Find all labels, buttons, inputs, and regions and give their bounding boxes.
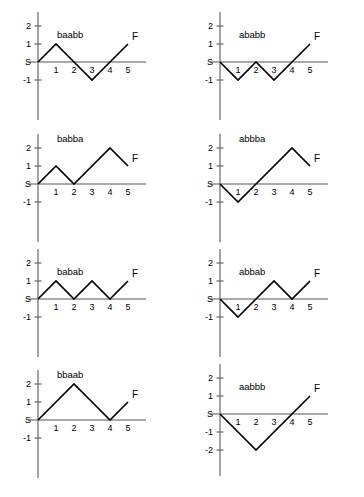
x-tick-label: 5 xyxy=(125,302,130,312)
word-label: bbaab xyxy=(57,369,83,380)
x-tick-label: 5 xyxy=(307,187,312,197)
chart-canvas: 21S-112345ababbF xyxy=(182,6,364,130)
lattice-path-line xyxy=(38,281,128,299)
start-label: S xyxy=(25,415,31,425)
word-label: aabbb xyxy=(239,381,265,392)
x-tick-label: 1 xyxy=(235,65,240,75)
x-tick-label: 4 xyxy=(289,302,294,312)
start-label: S xyxy=(25,294,31,304)
lattice-path-line xyxy=(220,396,310,450)
x-tick-label: 2 xyxy=(71,302,76,312)
end-label: F xyxy=(132,153,138,164)
start-label: S xyxy=(25,57,31,67)
path-panel-baabb: 21S-112345baabbF xyxy=(0,6,182,130)
x-tick-label: 4 xyxy=(289,187,294,197)
y-tick-label: 2 xyxy=(26,21,31,31)
end-label: F xyxy=(314,31,320,42)
x-tick-label: 4 xyxy=(107,65,112,75)
x-tick-label: 5 xyxy=(307,65,312,75)
y-tick-label: -1 xyxy=(205,75,213,85)
y-tick-label: -1 xyxy=(23,197,31,207)
x-tick-label: 1 xyxy=(53,302,58,312)
word-label: abbba xyxy=(239,133,266,144)
start-label: S xyxy=(207,294,213,304)
path-panel-babab: 21S-112345bababF xyxy=(0,243,182,367)
word-label: babba xyxy=(57,133,84,144)
y-tick-label: -1 xyxy=(205,427,213,437)
y-tick-label: -1 xyxy=(23,433,31,443)
y-tick-label: -1 xyxy=(23,312,31,322)
chart-canvas: 21S-112345abbbaF xyxy=(182,128,364,252)
y-tick-label: 1 xyxy=(26,397,31,407)
y-tick-label: -2 xyxy=(205,445,213,455)
word-label: baabb xyxy=(57,29,83,40)
x-tick-label: 1 xyxy=(53,187,58,197)
y-tick-label: 2 xyxy=(208,258,213,268)
chart-canvas: 21S-112345abbabF xyxy=(182,243,364,367)
x-tick-label: 2 xyxy=(253,187,258,197)
y-tick-label: 1 xyxy=(26,276,31,286)
lattice-path-line xyxy=(38,148,128,184)
end-label: F xyxy=(314,153,320,164)
y-tick-label: 1 xyxy=(208,391,213,401)
x-tick-label: 2 xyxy=(71,187,76,197)
x-tick-label: 3 xyxy=(89,65,94,75)
x-tick-label: 2 xyxy=(71,65,76,75)
y-tick-label: 1 xyxy=(208,276,213,286)
lattice-path-line xyxy=(38,384,128,420)
x-tick-label: 4 xyxy=(289,65,294,75)
x-tick-label: 4 xyxy=(107,302,112,312)
path-panel-ababb: 21S-112345ababbF xyxy=(182,6,364,130)
x-tick-label: 2 xyxy=(253,417,258,427)
start-label: S xyxy=(207,57,213,67)
y-tick-label: 1 xyxy=(26,161,31,171)
word-label: abbab xyxy=(239,266,265,277)
x-tick-label: 5 xyxy=(125,65,130,75)
x-tick-label: 3 xyxy=(271,187,276,197)
path-panel-bbaab: 21S-112345bbaabF xyxy=(0,364,182,488)
y-tick-label: 1 xyxy=(208,161,213,171)
x-tick-label: 3 xyxy=(271,65,276,75)
x-tick-label: 2 xyxy=(253,302,258,312)
x-tick-label: 2 xyxy=(253,65,258,75)
y-tick-label: 2 xyxy=(26,379,31,389)
x-tick-label: 5 xyxy=(307,417,312,427)
lattice-path-figure: 21S-112345baabbF21S-112345ababbF21S-1123… xyxy=(0,0,364,497)
path-panel-abbba: 21S-112345abbbaF xyxy=(182,128,364,252)
y-tick-label: 1 xyxy=(26,39,31,49)
x-tick-label: 1 xyxy=(53,423,58,433)
end-label: F xyxy=(132,31,138,42)
x-tick-label: 5 xyxy=(307,302,312,312)
start-label: S xyxy=(207,409,213,419)
path-panel-aabbb: 21S-1-212345aabbbF xyxy=(182,364,364,488)
x-tick-label: 2 xyxy=(71,423,76,433)
chart-canvas: 21S-112345bbaabF xyxy=(0,364,182,488)
x-tick-label: 3 xyxy=(271,417,276,427)
x-tick-label: 3 xyxy=(89,423,94,433)
y-tick-label: -1 xyxy=(23,75,31,85)
chart-canvas: 21S-112345babbaF xyxy=(0,128,182,252)
end-label: F xyxy=(314,268,320,279)
y-tick-label: -1 xyxy=(205,312,213,322)
y-tick-label: 2 xyxy=(26,258,31,268)
word-label: babab xyxy=(57,266,83,277)
end-label: F xyxy=(132,268,138,279)
y-tick-label: 2 xyxy=(26,143,31,153)
x-tick-label: 3 xyxy=(271,302,276,312)
x-tick-label: 1 xyxy=(53,65,58,75)
y-tick-label: 2 xyxy=(208,373,213,383)
chart-canvas: 21S-112345baabbF xyxy=(0,6,182,130)
y-tick-label: 1 xyxy=(208,39,213,49)
x-tick-label: 3 xyxy=(89,302,94,312)
y-tick-label: -1 xyxy=(205,197,213,207)
y-tick-label: 2 xyxy=(208,21,213,31)
x-tick-label: 5 xyxy=(125,423,130,433)
x-tick-label: 1 xyxy=(235,302,240,312)
start-label: S xyxy=(207,179,213,189)
x-tick-label: 1 xyxy=(235,187,240,197)
x-tick-label: 3 xyxy=(89,187,94,197)
lattice-path-line xyxy=(220,148,310,202)
x-tick-label: 4 xyxy=(107,423,112,433)
x-tick-label: 1 xyxy=(235,417,240,427)
x-tick-label: 4 xyxy=(289,417,294,427)
